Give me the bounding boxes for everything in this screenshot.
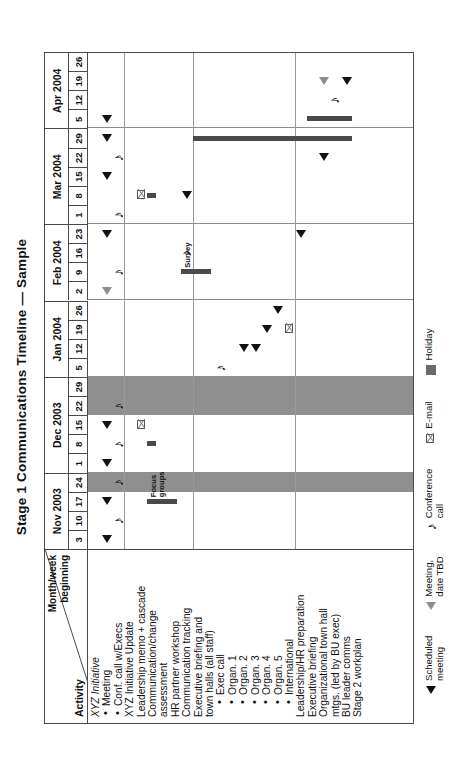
week-header-feb-2: 2 xyxy=(69,281,88,300)
conference-call-marker: ♪ xyxy=(180,250,194,257)
week-header-apr-12: 12 xyxy=(69,90,88,109)
grid-body: XYZ InitiativeMeetingConf. call w/ExecsX… xyxy=(88,53,413,723)
activity-row-label: Organ. 5 xyxy=(273,550,284,717)
plot-area: ♪♪♪♪♪♪♪SurveyFocusgroups♪♪♪ xyxy=(88,53,413,549)
long-duration-bar xyxy=(307,116,353,121)
row-group-separator xyxy=(124,53,125,549)
conference-call-marker: ♪ xyxy=(214,364,228,371)
activity-row-label: assessment xyxy=(158,550,169,717)
long-duration-bar xyxy=(193,136,353,141)
scheduled-meeting-marker xyxy=(102,535,112,543)
week-header-feb-16: 16 xyxy=(69,243,88,262)
month-separator xyxy=(88,127,413,128)
legend-label: Conferencecall xyxy=(424,469,445,519)
conference-call-icon: ♪ xyxy=(426,523,438,530)
activity-row-label: XYZ Initiative Update xyxy=(124,550,135,717)
row-group-separator xyxy=(295,53,296,549)
activity-row-label: Stage 2 workplan xyxy=(352,550,363,717)
scheduled-meeting-marker xyxy=(319,153,329,161)
conference-call-marker: ♪ xyxy=(112,441,126,448)
week-header-mar-15: 15 xyxy=(69,167,88,186)
legend-item: ♪Conferencecall xyxy=(424,469,445,531)
activity-row-label: XYZ Initiative xyxy=(90,550,101,717)
activity-row-label: Organ. 2 xyxy=(238,550,249,717)
scheduled-meeting-marker xyxy=(102,172,112,180)
scheduled-meeting-marker xyxy=(102,421,112,429)
week-header-dec-8: 8 xyxy=(69,434,88,453)
week-header-mar-8: 8 xyxy=(69,186,88,205)
scheduled-meeting-marker xyxy=(273,306,283,314)
activity-row-label: Executive briefing and xyxy=(193,550,204,717)
month-separator xyxy=(88,223,413,224)
conference-call-marker: ♪ xyxy=(112,154,126,161)
month-week-label: Month/weekbeginning xyxy=(47,555,70,612)
conference-call-marker: ♪ xyxy=(112,479,126,486)
month-header-nov-2003: Nov 2003 xyxy=(45,473,69,549)
month-separator xyxy=(88,472,413,473)
scheduled-meeting-marker xyxy=(239,344,249,352)
rotated-chart-wrapper: Stage 1 Communications Timeline — Sample… xyxy=(0,0,462,774)
legend-item: Holiday xyxy=(424,329,436,376)
activity-row-label: International xyxy=(284,550,295,717)
meeting-tbd-marker xyxy=(319,77,329,85)
activity-row-label: Exec call xyxy=(215,550,226,717)
holiday-icon xyxy=(426,366,436,376)
activity-row-label: Conf. call w/Execs xyxy=(113,550,124,717)
conference-call-marker: ♪ xyxy=(112,269,126,276)
milestone-block xyxy=(147,193,156,198)
week-header-feb-23: 23 xyxy=(69,224,88,243)
timeline-grid: Month/weekbeginning Activity Nov 2003310… xyxy=(44,52,414,724)
legend-label: E-mail xyxy=(424,402,435,429)
scheduled-meeting-marker xyxy=(251,344,261,352)
email-marker xyxy=(137,420,145,429)
activity-row-label: Leadership/HR preparation xyxy=(295,550,306,717)
month-header-feb-2004: Feb 2004 xyxy=(45,224,69,300)
week-header-nov-3: 3 xyxy=(69,530,88,549)
scheduled-meeting-marker xyxy=(102,497,112,505)
scheduled-meeting-marker xyxy=(262,325,272,333)
activity-row-label: town halls (all staff) xyxy=(204,550,215,717)
focus-groups-bar xyxy=(147,499,177,504)
scheduled-meeting-marker xyxy=(296,230,306,238)
scheduled-meeting-icon xyxy=(426,686,436,694)
week-header-dec-22: 22 xyxy=(69,396,88,415)
activity-row-label: BU leader comms xyxy=(341,550,352,717)
scheduled-meeting-marker xyxy=(102,459,112,467)
conference-call-marker: ♪ xyxy=(328,97,342,104)
month-separator xyxy=(88,300,413,301)
row-group-separator xyxy=(193,53,194,549)
activity-header-label: Activity xyxy=(73,679,85,717)
week-header-mar-22: 22 xyxy=(69,148,88,167)
activity-row-label: Organ. 3 xyxy=(250,550,261,717)
scheduled-meeting-marker xyxy=(342,77,352,85)
bar-label: Focusgroups xyxy=(150,471,167,497)
milestone-block xyxy=(147,441,156,446)
meeting-tbd-marker xyxy=(102,287,112,295)
legend-item: Scheduledmeeting xyxy=(424,636,445,694)
activity-row-label: Organ. 1 xyxy=(227,550,238,717)
activity-row-label: Executive briefing xyxy=(307,550,318,717)
grid-corner-header: Month/weekbeginning Activity xyxy=(45,549,88,723)
week-header-apr-19: 19 xyxy=(69,71,88,90)
legend: ScheduledmeetingMeeting,date TBD♪Confere… xyxy=(424,54,456,694)
activity-row-label: HR partner workshop xyxy=(170,550,181,717)
legend-item: Meeting,date TBD xyxy=(424,556,445,609)
activity-row-label: Organ. 4 xyxy=(261,550,272,717)
email-marker xyxy=(137,190,145,199)
month-header-jan-2004: Jan 2004 xyxy=(45,301,69,377)
email-marker xyxy=(285,324,293,333)
activity-row-label: mtgs. (led by BU exec) xyxy=(330,550,341,717)
conference-call-marker: ♪ xyxy=(112,517,126,524)
activity-label-column: XYZ InitiativeMeetingConf. call w/ExecsX… xyxy=(88,549,413,723)
week-header-mar-1: 1 xyxy=(69,205,88,224)
week-header-dec-15: 15 xyxy=(69,415,88,434)
week-header-apr-5: 5 xyxy=(69,109,88,128)
activity-row-label: Communication tracking xyxy=(181,550,192,717)
week-header-jan-5: 5 xyxy=(69,358,88,377)
survey-bar xyxy=(181,269,211,274)
conference-call-marker: ♪ xyxy=(112,211,126,218)
scheduled-meeting-marker xyxy=(102,230,112,238)
month-separator xyxy=(88,376,413,377)
week-header-nov-24: 24 xyxy=(69,473,88,492)
week-header-nov-10: 10 xyxy=(69,511,88,530)
